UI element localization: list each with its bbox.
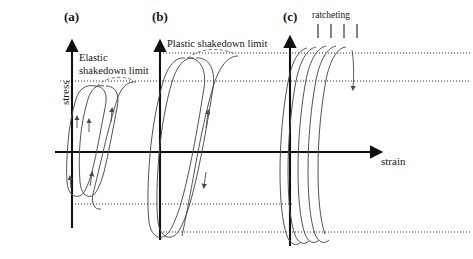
strain-axis-label: strain bbox=[381, 155, 405, 168]
panel-c-direction-arrow bbox=[352, 50, 354, 88]
panel-b-curves bbox=[148, 56, 238, 237]
plastic-shakedown-limit-label: Plastic shakedown limit bbox=[167, 38, 267, 50]
panel-label-a: (a) bbox=[64, 10, 79, 25]
ratcheting-label: ratcheting bbox=[312, 10, 350, 21]
panel-label-b: (b) bbox=[152, 10, 168, 25]
panel-b-group bbox=[148, 49, 238, 240]
panel-b-dashed-link bbox=[188, 49, 235, 58]
figure-canvas: (a) (b) (c) Elastic shakedown limit Plas… bbox=[0, 0, 473, 259]
elastic-shakedown-limit-line2: shakedown limit bbox=[79, 65, 149, 77]
panel-a-curves bbox=[67, 82, 136, 209]
panel-c-group bbox=[280, 24, 357, 246]
panel-label-c: (c) bbox=[283, 10, 297, 25]
panel-a-dashed-link bbox=[97, 77, 133, 86]
ratcheting-tick-marks bbox=[318, 24, 357, 38]
stress-axis-label: stress bbox=[59, 81, 72, 105]
elastic-shakedown-limit-line1: Elastic bbox=[79, 52, 108, 64]
